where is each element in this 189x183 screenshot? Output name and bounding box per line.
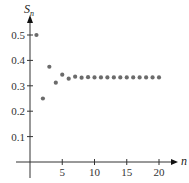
data-point bbox=[157, 75, 161, 79]
x-axis-arrow-icon bbox=[171, 159, 178, 165]
data-point bbox=[125, 75, 129, 79]
y-tick-label: 0.2 bbox=[11, 105, 25, 117]
x-tick-label: 10 bbox=[89, 166, 101, 178]
data-point bbox=[47, 65, 51, 69]
y-tick-label: 0.5 bbox=[11, 29, 25, 41]
data-point bbox=[41, 96, 45, 100]
data-point bbox=[105, 75, 109, 79]
data-point bbox=[138, 75, 142, 79]
y-axis-label: Sn bbox=[24, 2, 34, 18]
data-point bbox=[112, 75, 116, 79]
data-point bbox=[99, 75, 103, 79]
data-point bbox=[34, 33, 38, 37]
x-tick-label: 15 bbox=[121, 166, 133, 178]
data-point bbox=[92, 75, 96, 79]
data-point bbox=[54, 81, 58, 85]
x-axis-label: n bbox=[181, 154, 187, 168]
x-tick-label: 20 bbox=[154, 166, 166, 178]
data-point bbox=[80, 76, 84, 80]
data-point bbox=[144, 75, 148, 79]
axes: Snn0.10.20.30.40.55101520 bbox=[11, 2, 187, 178]
data-point bbox=[67, 77, 71, 81]
data-point bbox=[131, 75, 135, 79]
data-point bbox=[118, 75, 122, 79]
sequence-scatter-chart: Snn0.10.20.30.40.55101520 bbox=[0, 0, 189, 183]
data-point bbox=[86, 75, 90, 79]
x-tick-label: 5 bbox=[60, 166, 66, 178]
y-tick-label: 0.3 bbox=[11, 80, 25, 92]
data-point bbox=[73, 75, 77, 79]
y-tick-label: 0.4 bbox=[11, 54, 25, 66]
data-point bbox=[150, 75, 154, 79]
y-tick-label: 0.1 bbox=[11, 131, 25, 143]
data-point bbox=[60, 73, 64, 77]
data-points bbox=[34, 33, 161, 101]
